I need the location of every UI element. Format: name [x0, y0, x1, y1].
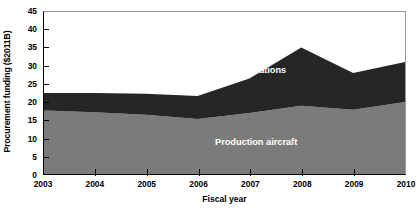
y-tick-mark — [43, 102, 49, 103]
stacked-area-chart: Procurement funding ($2011B) 05101520253… — [0, 0, 419, 214]
x-tick-label: 2005 — [125, 179, 169, 189]
x-tick-label: 2010 — [384, 179, 419, 189]
x-tick-label: 2004 — [73, 179, 117, 189]
x-tick-mark — [302, 169, 303, 176]
y-tick-mark — [43, 84, 49, 85]
y-tick-label: 10 — [18, 134, 37, 143]
x-tick-label: 2003 — [21, 179, 65, 189]
area-modifications — [43, 47, 405, 118]
x-tick-mark — [354, 169, 355, 176]
x-tick-label: 2008 — [280, 179, 324, 189]
y-tick-mark — [43, 66, 49, 67]
y-tick-mark — [43, 157, 49, 158]
y-tick-label: 30 — [18, 61, 37, 70]
y-tick-label: 20 — [18, 98, 37, 107]
plot-area — [43, 11, 406, 175]
y-axis-title: Procurement funding ($2011B) — [0, 4, 14, 179]
x-tick-mark — [147, 169, 148, 176]
x-tick-mark — [250, 169, 251, 176]
series-label-production-aircraft: Production aircraft — [215, 137, 297, 148]
series-label-modifications: Modifications — [227, 65, 286, 76]
x-tick-label: 2009 — [332, 179, 376, 189]
x-axis-title: Fiscal year — [43, 194, 406, 205]
y-tick-mark — [43, 120, 49, 121]
x-tick-label: 2007 — [228, 179, 272, 189]
y-tick-label: 35 — [18, 43, 37, 52]
y-tick-mark — [43, 29, 49, 30]
y-tick-label: 45 — [18, 7, 37, 16]
y-tick-mark — [43, 139, 49, 140]
x-tick-label: 2006 — [177, 179, 221, 189]
y-tick-label: 15 — [18, 116, 37, 125]
x-tick-mark — [95, 169, 96, 176]
y-tick-mark — [43, 47, 49, 48]
y-tick-label: 25 — [18, 79, 37, 88]
y-tick-label: 40 — [18, 25, 37, 34]
area-series-svg — [43, 11, 405, 175]
x-tick-mark — [199, 169, 200, 176]
y-tick-label: 5 — [18, 152, 37, 161]
